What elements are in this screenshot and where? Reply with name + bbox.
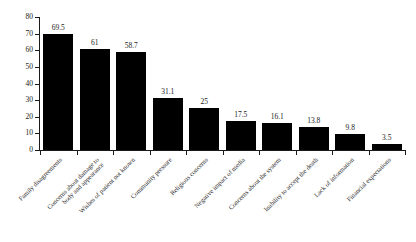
bars-container: 69.56158.731.12517.516.113.89.83.5 [40, 17, 405, 150]
bar [372, 144, 402, 150]
y-axis-tick [35, 34, 39, 35]
y-axis-tick-label-wrap: 40 [0, 80, 33, 88]
x-axis-tick [40, 151, 41, 155]
bar [153, 98, 183, 150]
bar-value-label: 16.1 [257, 113, 297, 121]
category-label-line: Religious concerns [169, 156, 210, 197]
y-axis-tick-label: 50 [9, 63, 33, 71]
y-axis-tick-label: 40 [9, 80, 33, 88]
x-axis-tick [186, 151, 187, 155]
x-axis-tick [223, 151, 224, 155]
bar-value-label: 17.5 [221, 111, 261, 119]
bar-value-label: 69.5 [38, 24, 78, 32]
y-axis-tick-label-wrap: 10 [0, 129, 33, 137]
bar [262, 123, 292, 150]
y-axis-tick [35, 100, 39, 101]
y-axis-tick [35, 133, 39, 134]
y-axis-tick-label-wrap: 20 [0, 113, 33, 121]
bar-value-label: 9.8 [330, 124, 370, 132]
bar-value-label: 58.7 [111, 42, 151, 50]
bar [189, 108, 219, 150]
y-axis-tick-label: 10 [9, 129, 33, 137]
bar-chart: 01020304050607080 69.56158.731.12517.516… [0, 0, 416, 242]
x-axis-tick [150, 151, 151, 155]
y-axis-tick-label: 60 [9, 46, 33, 54]
y-axis-tick-label: 30 [9, 96, 33, 104]
bar [80, 49, 110, 150]
y-axis-tick-label: 0 [9, 146, 33, 154]
category-label-line: Lack of information [313, 156, 356, 199]
bar-value-label: 13.8 [294, 117, 334, 125]
bar-value-label: 31.1 [148, 88, 188, 96]
bar-value-label: 25 [184, 98, 224, 106]
y-axis-tick [35, 150, 39, 151]
bar-value-label: 61 [75, 39, 115, 47]
y-axis-tick [35, 84, 39, 85]
x-axis-tick [113, 151, 114, 155]
y-axis-tick-label: 70 [9, 30, 33, 38]
bar [116, 52, 146, 150]
y-axis-tick [35, 67, 39, 68]
y-axis-tick-label: 20 [9, 113, 33, 121]
bar [226, 121, 256, 150]
bar [335, 134, 365, 150]
x-axis-tick [259, 151, 260, 155]
x-axis-tick [77, 151, 78, 155]
y-axis-tick-label: 80 [9, 13, 33, 21]
bar-value-label: 3.5 [367, 134, 407, 142]
y-axis-tick-label-wrap: 30 [0, 96, 33, 104]
y-axis-tick-label-wrap: 70 [0, 30, 33, 38]
y-axis-tick [35, 117, 39, 118]
y-axis-tick-label-wrap: 60 [0, 46, 33, 54]
y-axis-tick [35, 17, 39, 18]
bar [299, 127, 329, 150]
x-axis-tick [296, 151, 297, 155]
y-axis-tick-label-wrap: 50 [0, 63, 33, 71]
x-axis-tick [332, 151, 333, 155]
y-axis-tick-label-wrap: 0 [0, 146, 33, 154]
x-axis-tick [405, 151, 406, 155]
bar [43, 34, 73, 150]
x-axis-tick [369, 151, 370, 155]
y-axis-tick [35, 50, 39, 51]
y-axis-tick-label-wrap: 80 [0, 13, 33, 21]
